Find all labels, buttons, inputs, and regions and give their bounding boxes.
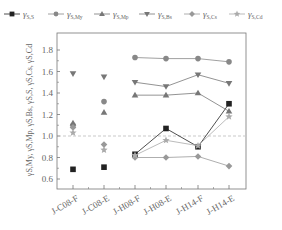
legend-item: γS,Bs bbox=[139, 9, 172, 20]
legend-item: γS,Cd bbox=[229, 9, 263, 20]
x-tick-label: J-H08-E bbox=[142, 193, 174, 217]
chart: γS,SγS,MyγS,MpγS,BsγS,CsγS,Cd 0.60.81.01… bbox=[0, 0, 282, 230]
triangle-up-marker-icon bbox=[226, 108, 233, 114]
series-line bbox=[135, 93, 229, 111]
square-marker-icon bbox=[70, 167, 76, 173]
y-tick-label: 1.8 bbox=[42, 45, 54, 55]
y-tick-label: 1.2 bbox=[42, 110, 53, 120]
triangle-down-marker-icon bbox=[144, 12, 150, 17]
legend-item: γS,S bbox=[4, 9, 34, 20]
series-s-bs bbox=[70, 71, 233, 90]
star-marker-icon bbox=[100, 146, 107, 153]
x-tick-label: J-C08-E bbox=[80, 193, 111, 217]
plot-frame bbox=[57, 33, 246, 189]
series-line bbox=[135, 104, 229, 155]
x-tick-label: J-H14-E bbox=[205, 193, 237, 217]
circle-marker-icon bbox=[54, 12, 59, 17]
square-marker-icon bbox=[10, 12, 15, 17]
triangle-up-marker-icon bbox=[101, 109, 108, 115]
legend-label: γS,Cs bbox=[203, 9, 217, 20]
legend-item: γS,Cs bbox=[184, 9, 217, 20]
x-tick-label: J-H14-F bbox=[174, 193, 205, 217]
series-layer bbox=[69, 55, 232, 172]
y-tick-label: 0.6 bbox=[42, 174, 54, 184]
square-marker-icon bbox=[163, 126, 169, 132]
triangle-down-marker-icon bbox=[101, 75, 108, 81]
y-tick-label: 1.4 bbox=[42, 88, 54, 98]
star-marker-icon bbox=[69, 129, 76, 136]
circle-marker-icon bbox=[101, 99, 107, 105]
legend: γS,SγS,MyγS,MpγS,BsγS,CsγS,Cd bbox=[4, 9, 263, 20]
legend-item: γS,Mp bbox=[94, 9, 129, 20]
series-s-mp bbox=[70, 90, 233, 126]
circle-marker-icon bbox=[132, 55, 138, 61]
y-tick-label: 1.6 bbox=[42, 67, 54, 77]
legend-label: γS,Bs bbox=[158, 9, 172, 20]
diamond-marker-icon bbox=[195, 153, 202, 160]
diamond-marker-icon bbox=[189, 11, 195, 17]
triangle-up-marker-icon bbox=[132, 92, 139, 98]
circle-marker-icon bbox=[163, 56, 169, 62]
triangle-down-marker-icon bbox=[226, 81, 233, 87]
circle-marker-icon bbox=[226, 59, 232, 65]
x-axis: J-C08-FJ-C08-EJ-H08-FJ-H08-EJ-H14-FJ-H14… bbox=[49, 185, 236, 217]
series-line bbox=[135, 58, 229, 62]
star-marker-icon bbox=[162, 137, 169, 144]
legend-label: γS,My bbox=[67, 9, 83, 20]
diamond-marker-icon bbox=[163, 154, 170, 161]
triangle-down-marker-icon bbox=[70, 71, 77, 77]
series-s-cs bbox=[70, 124, 233, 169]
legend-label: γS,S bbox=[23, 9, 34, 20]
square-marker-icon bbox=[226, 101, 232, 107]
legend-item: γS,My bbox=[48, 9, 83, 20]
triangle-up-marker-icon bbox=[99, 11, 105, 16]
series-s-my bbox=[70, 55, 232, 128]
y-tick-label: 0.8 bbox=[42, 153, 54, 163]
series-line bbox=[135, 75, 229, 87]
x-tick-label: J-H08-F bbox=[111, 193, 142, 217]
star-marker-icon bbox=[234, 11, 240, 17]
y-axis-label: γS,My, γS,Mp, γS,Bs, γS,S, γS,Cs, γS,Cd bbox=[25, 44, 34, 177]
triangle-up-marker-icon bbox=[195, 90, 202, 96]
legend-label: γS,Mp bbox=[113, 9, 129, 20]
x-tick-label: J-C08-F bbox=[49, 193, 80, 216]
series-line bbox=[135, 156, 229, 166]
y-tick-label: 1.0 bbox=[42, 131, 54, 141]
legend-label: γS,Cd bbox=[248, 9, 263, 20]
circle-marker-icon bbox=[195, 56, 201, 62]
triangle-down-marker-icon bbox=[163, 84, 170, 90]
square-marker-icon bbox=[101, 164, 107, 170]
diamond-marker-icon bbox=[226, 163, 233, 170]
